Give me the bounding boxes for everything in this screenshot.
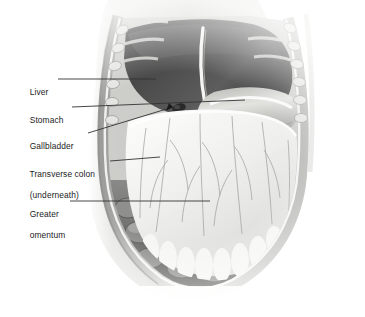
label-greater-omentum: Greater omentum <box>20 198 65 251</box>
label-liver: Liver <box>20 76 48 108</box>
label-gallbladder-text: Gallbladder <box>30 141 74 151</box>
label-stomach-text: Stomach <box>30 115 64 125</box>
anatomy-figure: Liver Stomach Gallbladder Transverse col… <box>0 0 365 317</box>
label-greater-omentum-subtext: omentum <box>30 230 66 240</box>
label-liver-text: Liver <box>30 87 49 97</box>
label-transverse-colon-text: Transverse colon <box>30 169 96 179</box>
label-greater-omentum-text: Greater <box>30 209 59 219</box>
label-gallbladder: Gallbladder <box>20 130 74 162</box>
